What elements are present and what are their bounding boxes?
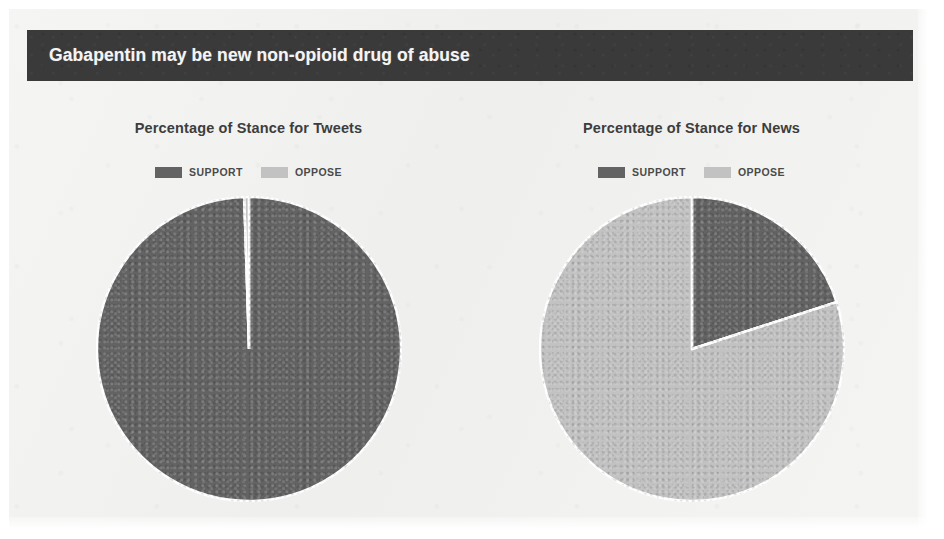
- legend-label-support: SUPPORT: [189, 166, 243, 178]
- legend-label-support: SUPPORT: [632, 166, 686, 178]
- legend-swatch-oppose-icon: [261, 167, 288, 178]
- legend-tweets: SUPPORT OPPOSE: [27, 166, 470, 178]
- legend-news: SUPPORT OPPOSE: [470, 166, 913, 178]
- scan-bleed-left: [0, 0, 9, 539]
- pie-svg-news: [539, 196, 845, 502]
- legend-swatch-support-icon: [155, 167, 182, 178]
- legend-swatch-oppose-icon: [704, 167, 731, 178]
- scan-bleed-right: [918, 0, 944, 539]
- charts-container: Percentage of Stance for Tweets SUPPORT …: [27, 92, 913, 516]
- pie-plot-area-news: [470, 196, 913, 502]
- chart-title-tweets: Percentage of Stance for Tweets: [27, 120, 470, 136]
- legend-item-support: SUPPORT: [598, 166, 686, 178]
- legend-label-oppose: OPPOSE: [738, 166, 785, 178]
- pie-svg-tweets: [96, 196, 402, 502]
- pie-chart-news: Percentage of Stance for News SUPPORT OP…: [470, 92, 913, 516]
- legend-swatch-support-icon: [598, 167, 625, 178]
- scanned-page: Gabapentin may be new non-opioid drug of…: [0, 0, 944, 539]
- legend-item-oppose: OPPOSE: [261, 166, 342, 178]
- chart-title-news: Percentage of Stance for News: [470, 120, 913, 136]
- pie-plot-area-tweets: [27, 196, 470, 502]
- legend-label-oppose: OPPOSE: [295, 166, 342, 178]
- legend-item-oppose: OPPOSE: [704, 166, 785, 178]
- article-headline-banner: Gabapentin may be new non-opioid drug of…: [27, 30, 913, 81]
- scan-bleed-top: [0, 0, 944, 9]
- scan-bleed-bottom: [0, 517, 944, 539]
- legend-item-support: SUPPORT: [155, 166, 243, 178]
- page-title: Gabapentin may be new non-opioid drug of…: [49, 45, 470, 66]
- pie-chart-tweets: Percentage of Stance for Tweets SUPPORT …: [27, 92, 470, 516]
